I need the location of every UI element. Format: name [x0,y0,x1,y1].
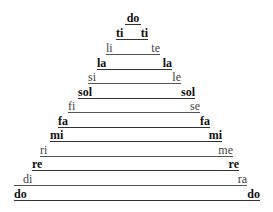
row-si-le: si le [88,69,181,84]
syllable-te: te [151,42,160,54]
syllable-ti-descending: ti [141,27,148,39]
syllable-le: le [172,71,181,83]
row-di-ra: di ra [14,171,247,186]
syllable-di: di [23,173,32,185]
syllable-re-ascending: re [32,158,42,170]
row-la: la la [97,55,172,70]
syllable-do-descending: do [247,188,260,200]
row-mi: mi mi [50,127,222,142]
syllable-fa-ascending: fa [58,115,68,127]
syllable-re-descending: re [229,158,239,170]
row-top-do: do [125,10,141,25]
row-li-te: li te [106,40,160,55]
syllable-do-ascending: do [14,188,27,200]
row-ti: ti ti [116,25,148,40]
syllable-do-top: do [125,12,141,24]
syllable-ri: ri [40,144,47,156]
syllable-se: se [190,100,200,112]
syllable-si: si [88,71,96,83]
syllable-la-descending: la [163,57,172,69]
syllable-ti-ascending: ti [116,27,123,39]
syllable-sol-ascending: sol [78,86,92,98]
row-bottom-do: do do [14,186,260,201]
syllable-mi-descending: mi [209,129,222,141]
syllable-li: li [106,42,113,54]
row-re: re re [32,156,239,171]
syllable-fi: fi [68,100,75,112]
syllable-mi-ascending: mi [50,129,63,141]
syllable-la-ascending: la [97,57,106,69]
row-sol: sol sol [78,84,195,99]
syllable-ra: ra [238,173,247,185]
syllable-fa-descending: fa [200,115,210,127]
syllable-sol-descending: sol [181,86,195,98]
row-fi-se: fi se [68,98,200,113]
row-fa: fa fa [58,113,210,128]
syllable-me: me [218,144,233,156]
row-ri-me: ri me [40,142,233,157]
